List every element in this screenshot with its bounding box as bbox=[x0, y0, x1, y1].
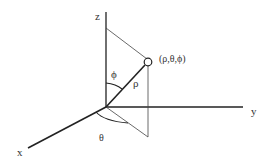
y-axis-label: y bbox=[251, 105, 257, 117]
theta-label: θ bbox=[99, 132, 104, 143]
phi-label: ϕ bbox=[111, 68, 117, 80]
x-axis-label: x bbox=[17, 146, 23, 158]
spherical-coordinates-diagram: z y x (ρ,θ,ϕ) ρ ϕ θ bbox=[0, 0, 270, 161]
theta-arc bbox=[96, 112, 128, 123]
point-marker bbox=[144, 58, 152, 66]
plane-bottom-edge bbox=[106, 107, 148, 137]
rho-label: ρ bbox=[133, 77, 139, 89]
point-label: (ρ,θ,ϕ) bbox=[159, 53, 186, 65]
x-axis bbox=[28, 107, 106, 148]
z-axis-label: z bbox=[95, 10, 100, 22]
plane-top-edge bbox=[106, 28, 147, 59]
phi-arc bbox=[106, 83, 122, 89]
